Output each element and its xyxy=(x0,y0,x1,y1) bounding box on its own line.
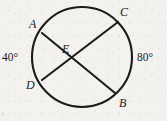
point-label-b: B xyxy=(119,97,127,109)
corner-artifact: ° xyxy=(1,112,5,121)
geometry-figure: A C E D B 40° 80° ° xyxy=(0,0,167,121)
point-label-d: D xyxy=(26,79,35,91)
arc-measure-right: 80° xyxy=(137,52,153,64)
point-label-e: E xyxy=(62,43,70,55)
chord-dc xyxy=(42,22,118,80)
point-label-a: A xyxy=(29,18,37,30)
arc-measure-left: 40° xyxy=(2,52,18,64)
point-label-c: C xyxy=(120,6,128,18)
chord-ab xyxy=(42,33,115,93)
